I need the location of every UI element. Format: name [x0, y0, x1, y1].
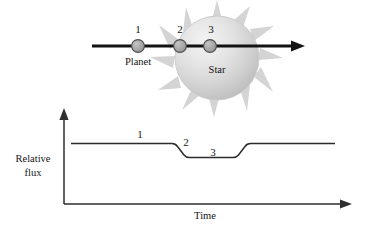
star-body — [175, 16, 259, 100]
figure-graphics — [0, 0, 375, 229]
star-label: Star — [209, 65, 226, 76]
x-axis-label: Time — [194, 211, 216, 222]
y-axis-label-line2: flux — [16, 166, 51, 180]
position-label-1: 1 — [135, 24, 141, 35]
curve-label-2: 2 — [183, 137, 189, 148]
figure-root: 1 2 3 Planet Star 1 2 3 Relative flux Ti… — [0, 0, 375, 229]
y-axis-label: Relative flux — [16, 152, 51, 180]
light-curve-path — [71, 144, 335, 158]
curve-label-1: 1 — [137, 129, 143, 140]
position-label-2: 2 — [177, 24, 183, 35]
curve-label-3: 3 — [210, 147, 216, 158]
planet-marker-2 — [174, 40, 187, 53]
y-axis-label-line1: Relative — [16, 152, 51, 166]
plot-axes — [59, 108, 352, 209]
position-label-3: 3 — [208, 24, 214, 35]
planet-label: Planet — [125, 57, 151, 68]
planet-marker-3 — [204, 40, 217, 53]
planet-marker-1 — [132, 40, 145, 53]
